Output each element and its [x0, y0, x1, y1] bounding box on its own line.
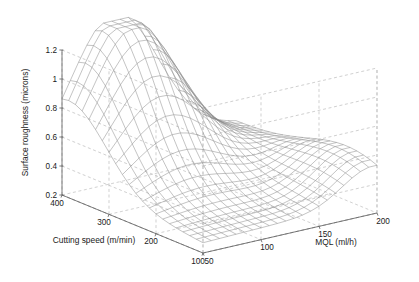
- axis-labels-layer: 0.20.40.60.811.210020030040050100150200S…: [20, 46, 390, 266]
- mesh-line: [62, 99, 203, 243]
- mesh-line: [137, 25, 278, 224]
- axis-tick-label: 0.4: [46, 162, 58, 171]
- grid-line: [203, 68, 377, 108]
- grid-line: [62, 137, 203, 195]
- axis-tick-label: 200: [376, 217, 390, 226]
- mesh-line: [136, 138, 310, 193]
- tick-mark: [108, 214, 109, 217]
- mesh-line: [176, 147, 350, 227]
- y-axis-title: Cutting speed (m/min): [53, 235, 136, 245]
- axis-tick-label: 300: [97, 218, 111, 227]
- axis-tick-label: 100: [260, 243, 274, 252]
- surface-plot-canvas: 0.20.40.60.811.210020030040050100150200S…: [0, 0, 419, 282]
- mesh-line: [102, 76, 276, 141]
- tick-mark: [261, 240, 262, 243]
- mesh-line: [79, 62, 220, 238]
- axis-tick-label: 200: [144, 237, 158, 246]
- axis-tick-label: 0.8: [46, 104, 58, 113]
- tick-mark: [155, 234, 156, 237]
- axis-tick-label: 1.2: [46, 46, 58, 55]
- mesh-line: [89, 40, 263, 130]
- axis-tick-label: 0.6: [46, 133, 58, 142]
- tick-mark: [377, 213, 378, 216]
- grid-line: [203, 184, 377, 224]
- mesh-line: [170, 77, 311, 211]
- axis-tick-label: 400: [50, 199, 64, 208]
- mesh-line: [96, 57, 270, 133]
- mesh-line: [169, 145, 343, 224]
- z-axis-title: Surface roughness (microns): [20, 69, 30, 177]
- grid-line: [203, 97, 377, 137]
- surface-plot-figure: 0.20.40.60.811.210020030040050100150200S…: [0, 0, 419, 282]
- axis-line: [203, 213, 377, 253]
- axis-tick-label: 1: [52, 75, 57, 84]
- x-axis-title: MQL (ml/h): [315, 237, 357, 247]
- axis-tick-label: 50: [204, 257, 214, 266]
- axis-tick-label: 100: [191, 257, 205, 266]
- mesh-line: [145, 36, 286, 221]
- tick-mark: [203, 253, 204, 256]
- mesh-line: [195, 108, 336, 193]
- tick-mark: [319, 226, 320, 229]
- mesh-line: [129, 137, 303, 184]
